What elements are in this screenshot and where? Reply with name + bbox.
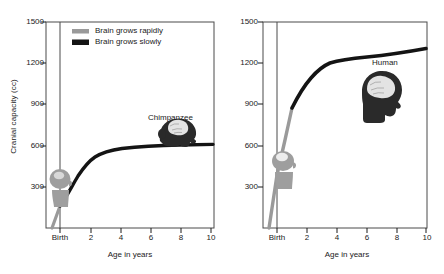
- figure-cranial-capacity-growth: Cranial capacity (cc) 1500 1200 900 600 …: [0, 0, 444, 274]
- legend: Brain grows rapidly Brain grows slowly: [72, 25, 163, 47]
- series-brain-grows-slowly: [292, 49, 426, 109]
- chart-panel-human: 1500 1200 900 600 300 Birth 2 4 6 8 10 A…: [222, 0, 444, 274]
- series-brain-grows-rapidly: [52, 206, 60, 228]
- human-silhouette-icon: [362, 71, 402, 123]
- chart-panel-chimpanzee: Cranial capacity (cc) 1500 1200 900 600 …: [0, 0, 222, 274]
- plot-area-human: [222, 0, 444, 274]
- legend-label-slow: Brain grows slowly: [95, 37, 161, 46]
- chimpanzee-silhouette-icon: [158, 118, 196, 147]
- legend-item-rapid: Brain grows rapidly: [72, 25, 163, 36]
- legend-item-slow: Brain grows slowly: [72, 36, 163, 47]
- legend-label-rapid: Brain grows rapidly: [95, 26, 163, 35]
- infant-silhouette-icon: [50, 169, 73, 207]
- series-brain-grows-slowly: [60, 144, 213, 206]
